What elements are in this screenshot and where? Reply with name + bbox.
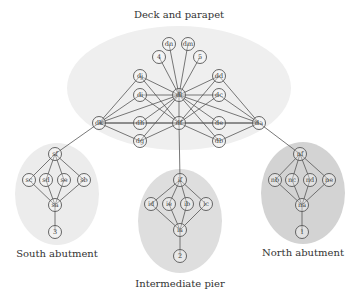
node-label: sa	[51, 201, 58, 209]
cluster-label-north: North abutment	[262, 247, 344, 258]
node-label: id	[148, 200, 154, 208]
node-id: id	[145, 198, 158, 211]
node-dg: dg	[134, 135, 147, 148]
node-sd: sd	[40, 174, 53, 187]
node-di: di	[134, 89, 147, 102]
node-label: 3	[53, 228, 57, 236]
cluster-label-south: South abutment	[16, 248, 98, 259]
node-ib: ib	[181, 198, 194, 211]
node-ie: ie	[163, 198, 176, 211]
node-label: dj	[137, 72, 143, 80]
node-label: sb	[80, 176, 88, 184]
node-label: dn	[165, 40, 173, 48]
node-4: 4	[153, 51, 166, 64]
node-nd: nd	[304, 174, 317, 187]
node-label: dh	[136, 119, 144, 127]
node-if: if	[174, 174, 187, 187]
node-label: ia	[177, 226, 183, 234]
node-nf: nf	[294, 148, 307, 161]
node-dh: dh	[134, 117, 147, 130]
node-dk: dk	[93, 117, 106, 130]
node-5: 5	[194, 51, 207, 64]
node-dn: dn	[163, 38, 176, 51]
node-label: 4	[157, 53, 161, 61]
node-dc: dc	[213, 89, 226, 102]
node-sf: sf	[49, 148, 62, 161]
node-label: dd	[215, 72, 223, 80]
node-label: se	[60, 176, 67, 184]
node-label: nc	[288, 176, 296, 184]
node-label: 1	[300, 228, 304, 236]
node-label: nd	[306, 176, 314, 184]
node-de: de	[213, 117, 226, 130]
node-3: 3	[49, 226, 62, 239]
cluster-label-pier: Intermediate pier	[135, 278, 225, 289]
node-dj: dj	[134, 70, 147, 83]
node-label: ic	[203, 200, 209, 208]
node-label: if	[178, 176, 183, 184]
node-dm: dm	[182, 38, 195, 51]
node-label: sf	[52, 150, 58, 158]
node-sc: sc	[23, 174, 36, 187]
node-ia: ia	[174, 224, 187, 237]
node-dl: dl	[173, 89, 186, 102]
node-label: de	[215, 119, 223, 127]
node-label: df	[176, 119, 183, 127]
node-label: ib	[184, 200, 190, 208]
node-na: na	[296, 199, 309, 212]
node-label: sc	[26, 176, 33, 184]
node-label: 5	[198, 53, 202, 61]
node-df: df	[173, 117, 186, 130]
node-ne: ne	[323, 174, 336, 187]
node-ic: ic	[200, 198, 213, 211]
node-label: db	[215, 137, 223, 145]
node-label: dc	[215, 91, 223, 99]
node-sa: sa	[49, 199, 62, 212]
node-label: di	[137, 91, 143, 99]
node-label: nf	[297, 150, 304, 158]
node-label: da	[255, 119, 263, 127]
node-label: dm	[183, 40, 193, 48]
node-se: se	[58, 174, 71, 187]
node-1: 1	[296, 226, 309, 239]
node-label: sd	[42, 176, 50, 184]
node-label: nb	[271, 176, 279, 184]
edge-da-nf	[259, 123, 300, 154]
node-label: dl	[176, 91, 182, 99]
node-db: db	[213, 135, 226, 148]
node-2: 2	[174, 250, 187, 263]
node-label: dk	[95, 119, 103, 127]
node-label: dg	[136, 137, 144, 145]
node-label: na	[298, 201, 306, 209]
node-sb: sb	[78, 174, 91, 187]
cluster-label-deck: Deck and parapet	[134, 9, 224, 20]
node-label: ie	[166, 200, 172, 208]
node-label: 2	[178, 252, 182, 260]
bridge-graph-diagram: dndm45djdddidldcdkdhdfdedadgdbsfscsdsesb…	[0, 0, 359, 294]
node-label: ne	[325, 176, 333, 184]
node-nb: nb	[269, 174, 282, 187]
node-dd: dd	[213, 70, 226, 83]
node-nc: nc	[286, 174, 299, 187]
node-da: da	[253, 117, 266, 130]
